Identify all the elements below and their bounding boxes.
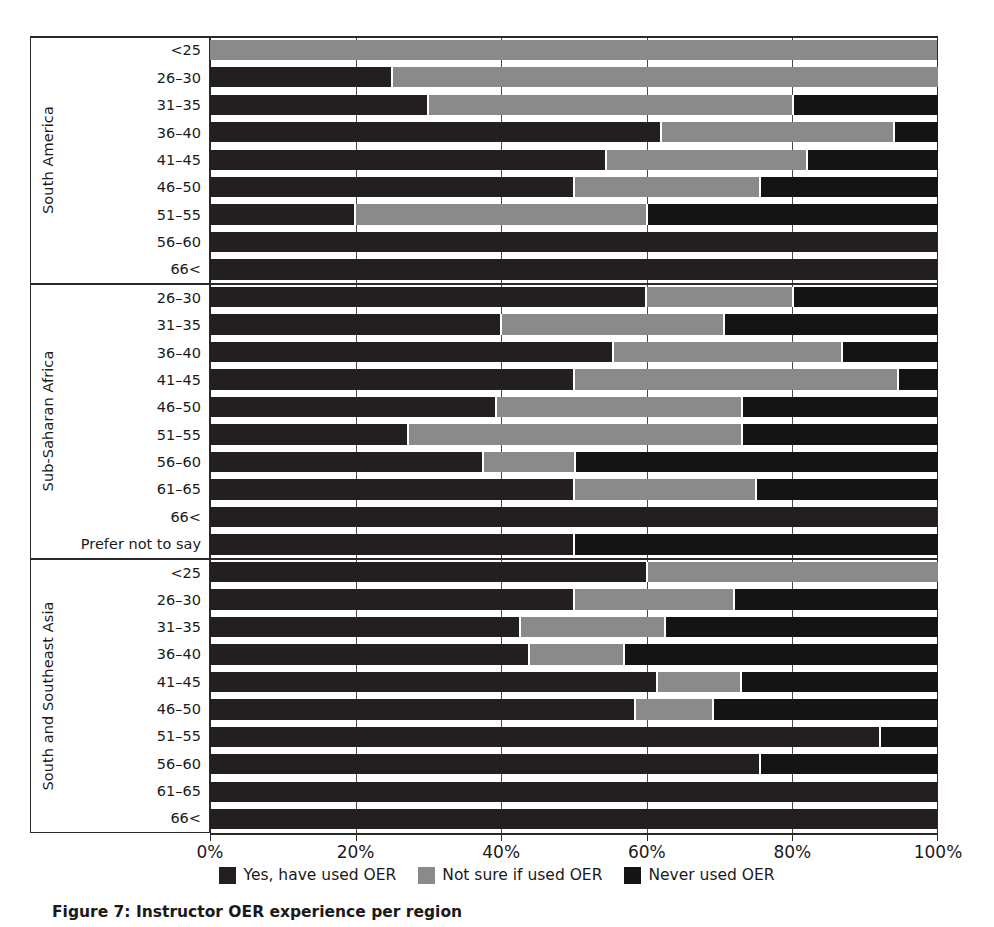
bar-row bbox=[210, 338, 938, 365]
bar-segment-never bbox=[761, 177, 938, 197]
stacked-bar bbox=[210, 727, 938, 747]
bar-segment-not-sure bbox=[409, 424, 740, 444]
x-tick-80 bbox=[792, 833, 793, 841]
legend-item[interactable]: Never used OER bbox=[624, 866, 774, 884]
bar-segment-yes bbox=[210, 204, 354, 224]
category-label: 56–60 bbox=[63, 750, 201, 777]
stacked-bar bbox=[210, 150, 938, 170]
figure-caption: Figure 7: Instructor OER experience per … bbox=[52, 903, 752, 927]
bar-row bbox=[210, 256, 938, 283]
bar-segment-never bbox=[714, 699, 938, 719]
bar-segment-yes bbox=[210, 507, 937, 527]
legend-swatch-icon bbox=[219, 867, 236, 884]
bar-segment-not-sure bbox=[484, 452, 574, 472]
bar-segment-never bbox=[625, 644, 938, 664]
category-label: 66< bbox=[63, 805, 201, 832]
region-box-south-and-southeast-asia: South and Southeast Asia <2526–3031–3536… bbox=[30, 558, 210, 833]
category-label: 26–30 bbox=[63, 64, 201, 91]
bar-segment-not-sure bbox=[614, 342, 841, 362]
group-separator-2 bbox=[30, 558, 938, 560]
bar-row bbox=[210, 118, 938, 145]
stacked-bar bbox=[210, 204, 938, 224]
bar-segment-yes bbox=[210, 342, 612, 362]
bar-group-south-america bbox=[210, 36, 938, 283]
bar-row bbox=[210, 393, 938, 420]
category-labels-group-2: <2526–3031–3536–4041–4546–5051–5556–6061… bbox=[63, 559, 201, 832]
stacked-bar bbox=[210, 177, 938, 197]
bar-segment-yes bbox=[210, 782, 937, 802]
bar-row bbox=[210, 283, 938, 310]
x-tick-label: 0% bbox=[197, 842, 224, 862]
x-axis-ticks bbox=[210, 833, 938, 841]
x-tick-40 bbox=[501, 833, 502, 841]
category-labels-group-0: <2526–3031–3536–4041–4546–5051–5556–6066… bbox=[63, 37, 201, 283]
stacked-bar bbox=[210, 232, 938, 252]
x-tick-100 bbox=[937, 833, 938, 841]
stacked-bar bbox=[210, 644, 938, 664]
bar-segment-not-sure bbox=[521, 617, 665, 637]
bar-segment-not-sure bbox=[429, 95, 792, 115]
legend-label: Yes, have used OER bbox=[243, 866, 396, 884]
bar-row bbox=[210, 448, 938, 475]
legend-label: Never used OER bbox=[648, 866, 774, 884]
bar-segment-not-sure bbox=[497, 397, 740, 417]
category-label: 51–55 bbox=[63, 723, 201, 750]
category-label: 66< bbox=[63, 503, 201, 530]
category-label: 36–40 bbox=[63, 641, 201, 668]
bar-segment-not-sure bbox=[636, 699, 712, 719]
bar-row bbox=[210, 36, 938, 63]
x-tick-60 bbox=[647, 833, 648, 841]
x-tick-label: 100% bbox=[914, 842, 963, 862]
bar-row bbox=[210, 201, 938, 228]
bar-segment-yes bbox=[210, 479, 573, 499]
bar-row bbox=[210, 421, 938, 448]
bar-segment-not-sure bbox=[393, 67, 938, 87]
bar-segment-not-sure bbox=[575, 479, 756, 499]
x-tick-label: 20% bbox=[337, 842, 375, 862]
bar-segment-yes bbox=[210, 259, 937, 279]
bar-row bbox=[210, 723, 938, 750]
bar-segment-never bbox=[761, 754, 938, 774]
bar-segment-yes bbox=[210, 589, 573, 609]
x-tick-20 bbox=[356, 833, 357, 841]
legend-item[interactable]: Yes, have used OER bbox=[219, 866, 396, 884]
bar-segment-yes bbox=[210, 369, 573, 389]
bar-row bbox=[210, 228, 938, 255]
bar-segment-yes bbox=[210, 452, 482, 472]
category-label: 41–45 bbox=[63, 147, 201, 174]
bar-segment-yes bbox=[210, 150, 605, 170]
bar-row bbox=[210, 806, 938, 833]
bar-segment-yes bbox=[210, 397, 495, 417]
bar-segment-never bbox=[735, 589, 938, 609]
bar-group-south-and-southeast-asia bbox=[210, 558, 938, 833]
category-label: 46–50 bbox=[63, 174, 201, 201]
bar-segment-not-sure bbox=[607, 150, 806, 170]
bar-segment-never bbox=[743, 397, 938, 417]
x-tick-label: 40% bbox=[482, 842, 520, 862]
bar-segment-yes bbox=[210, 424, 407, 444]
category-label: 36–40 bbox=[63, 339, 201, 366]
bar-segment-yes bbox=[210, 644, 528, 664]
bar-segment-yes bbox=[210, 809, 937, 829]
bar-segment-never bbox=[742, 672, 938, 692]
bar-segment-never bbox=[666, 617, 938, 637]
legend-swatch-icon bbox=[624, 867, 641, 884]
bar-segment-yes bbox=[210, 67, 391, 87]
region-title-label: South America bbox=[40, 106, 56, 214]
bar-segment-yes bbox=[210, 95, 427, 115]
stacked-bar bbox=[210, 67, 938, 87]
bar-segment-yes bbox=[210, 122, 660, 142]
bar-segment-yes bbox=[210, 562, 646, 582]
legend-item[interactable]: Not sure if used OER bbox=[418, 866, 602, 884]
category-label: 61–65 bbox=[63, 476, 201, 503]
bar-segment-yes bbox=[210, 314, 500, 334]
bar-segment-not-sure bbox=[575, 589, 734, 609]
bar-segment-not-sure bbox=[356, 204, 646, 224]
bar-segment-never bbox=[576, 452, 939, 472]
category-label: 31–35 bbox=[63, 92, 201, 119]
bar-row bbox=[210, 778, 938, 805]
stacked-bar bbox=[210, 534, 938, 554]
bar-segment-never bbox=[648, 204, 938, 224]
bar-segment-yes bbox=[210, 727, 879, 747]
category-label: 31–35 bbox=[63, 312, 201, 339]
